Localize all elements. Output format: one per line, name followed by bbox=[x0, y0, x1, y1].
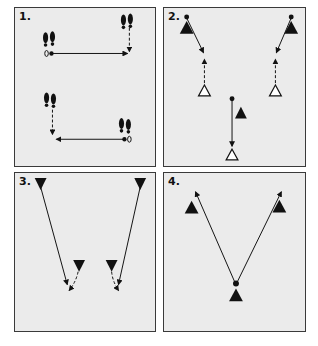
panel-3-drawing bbox=[15, 173, 155, 331]
panel-4-drawing bbox=[164, 173, 305, 331]
panel-1: 1. bbox=[14, 7, 156, 167]
player-inverted-triangle-icon bbox=[106, 260, 118, 272]
cone-icon bbox=[270, 85, 282, 96]
player-triangle-icon bbox=[284, 21, 298, 34]
player-inverted-triangle-icon bbox=[73, 260, 85, 272]
footprints-icon bbox=[119, 118, 131, 134]
panel-2: 2. bbox=[163, 7, 306, 167]
start-marker-icon bbox=[128, 136, 132, 142]
cone-icon bbox=[226, 149, 238, 160]
player-triangle-icon bbox=[229, 288, 243, 301]
footprints-icon bbox=[44, 92, 56, 108]
panel-3: 3. bbox=[14, 172, 156, 332]
start-marker-icon bbox=[45, 51, 49, 57]
player-triangle-icon bbox=[235, 107, 247, 119]
player-triangle-icon bbox=[185, 201, 199, 214]
panel-4: 4. bbox=[163, 172, 306, 332]
cone-icon bbox=[199, 85, 211, 96]
panel-1-drawing bbox=[15, 8, 155, 166]
footprints-icon bbox=[43, 31, 55, 47]
panel-2-drawing bbox=[164, 8, 305, 166]
footprints-icon bbox=[121, 14, 133, 30]
